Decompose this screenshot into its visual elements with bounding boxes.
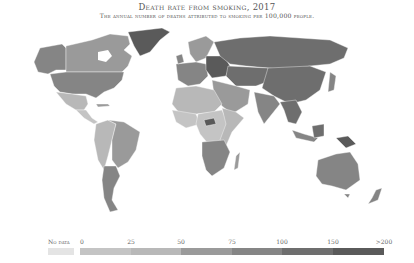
region-uk[interactable] <box>176 54 184 64</box>
region-madagascar[interactable] <box>234 152 240 170</box>
legend-tick-25: 25 <box>127 238 135 245</box>
legend-tick-0: 0 <box>80 238 84 245</box>
legend-tick-100: 100 <box>276 238 287 245</box>
region-western-europe[interactable] <box>176 62 208 86</box>
region-borneo[interactable] <box>312 124 324 138</box>
world-map <box>0 22 414 232</box>
region-greenland[interactable] <box>128 28 170 56</box>
legend-tick-200: >200 <box>376 238 392 245</box>
legend-bin-50-75 <box>181 248 232 255</box>
legend-bin-25-50 <box>131 248 181 255</box>
region-new-zealand[interactable] <box>368 188 382 204</box>
legend-no-data-label: No data <box>48 238 70 245</box>
region-papua-new-guinea[interactable] <box>336 136 356 148</box>
region-southeast-asia[interactable] <box>280 100 302 124</box>
legend-bin-100-150 <box>282 248 333 255</box>
region-southern-africa[interactable] <box>202 140 230 176</box>
map-title: Death rate from smoking, 2017 <box>0 2 414 12</box>
legend: No data 0 25 50 75 100 150 >200 <box>0 238 414 263</box>
region-japan[interactable] <box>328 72 336 92</box>
legend-tick-50: 50 <box>177 238 185 245</box>
legend-bin-0-25 <box>80 248 131 255</box>
legend-tick-150: 150 <box>327 238 338 245</box>
legend-bin-75-100 <box>232 248 282 255</box>
region-mexico[interactable] <box>56 92 88 110</box>
region-tasmania[interactable] <box>344 194 350 198</box>
region-russia[interactable] <box>214 36 348 70</box>
region-argentina[interactable] <box>102 166 120 212</box>
region-australia[interactable] <box>316 152 360 190</box>
region-alaska[interactable] <box>34 44 66 74</box>
legend-bin-150-200 <box>333 248 384 255</box>
legend-color-bar <box>80 248 384 255</box>
map-subtitle: The annual number of deaths attributed t… <box>0 12 414 19</box>
region-central-america[interactable] <box>76 110 98 124</box>
legend-no-data-swatch <box>48 248 74 255</box>
region-caribbean[interactable] <box>96 104 110 107</box>
legend-tick-75: 75 <box>228 238 236 245</box>
